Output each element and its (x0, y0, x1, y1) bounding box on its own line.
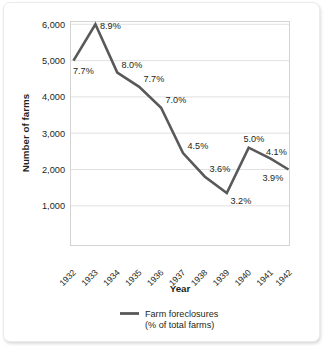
y-axis-title: Number of farms (20, 93, 31, 172)
x-tick-1936: 1936 (145, 267, 166, 288)
data-label-1939: 3.2% (231, 196, 252, 206)
x-tick-1933: 1933 (79, 267, 100, 288)
data-label-1941: 4.1% (266, 147, 287, 157)
x-tick-1938: 1938 (189, 267, 210, 288)
x-tick-1934: 1934 (101, 267, 122, 288)
data-label-1940: 5.0% (244, 134, 265, 144)
data-label-1936: 7.0% (166, 95, 187, 105)
x-tick-1932: 1932 (57, 267, 78, 288)
chart-legend: Farm foreclosures (% of total farms) (120, 309, 219, 330)
data-label-1933: 8.9% (100, 21, 121, 31)
y-tick-1000: 1,000 (42, 201, 65, 211)
x-tick-1942: 1942 (273, 267, 294, 288)
data-label-1935: 7.7% (144, 74, 165, 84)
data-label-1942: 3.9% (263, 173, 284, 183)
data-label-1938: 3.6% (210, 164, 231, 174)
data-label-1937: 4.5% (188, 141, 209, 151)
data-label-1932: 7.7% (73, 66, 94, 76)
y-tick-6000: 6,000 (42, 20, 65, 30)
x-tick-1940: 1940 (233, 267, 254, 288)
y-tick-3000: 3,000 (42, 129, 65, 139)
x-tick-1939: 1939 (211, 267, 232, 288)
legend-label-line1: Farm foreclosures (145, 309, 219, 319)
y-tick-5000: 5,000 (42, 56, 65, 66)
x-axis-title: Year (170, 283, 191, 294)
chart-svg: 6,000 5,000 4,000 3,000 2,000 1,000 Numb… (4, 3, 321, 343)
x-tick-1941: 1941 (254, 267, 275, 288)
data-label-1934: 8.0% (122, 60, 143, 70)
y-axis-tick-labels: 6,000 5,000 4,000 3,000 2,000 1,000 (42, 20, 65, 212)
x-tick-1935: 1935 (123, 267, 144, 288)
line-chart-figure: 6,000 5,000 4,000 3,000 2,000 1,000 Numb… (4, 3, 321, 343)
chart-card: 6,000 5,000 4,000 3,000 2,000 1,000 Numb… (3, 2, 320, 342)
legend-label-line2: (% of total farms) (145, 320, 214, 330)
y-tick-2000: 2,000 (42, 165, 65, 175)
y-tick-4000: 4,000 (42, 92, 65, 102)
